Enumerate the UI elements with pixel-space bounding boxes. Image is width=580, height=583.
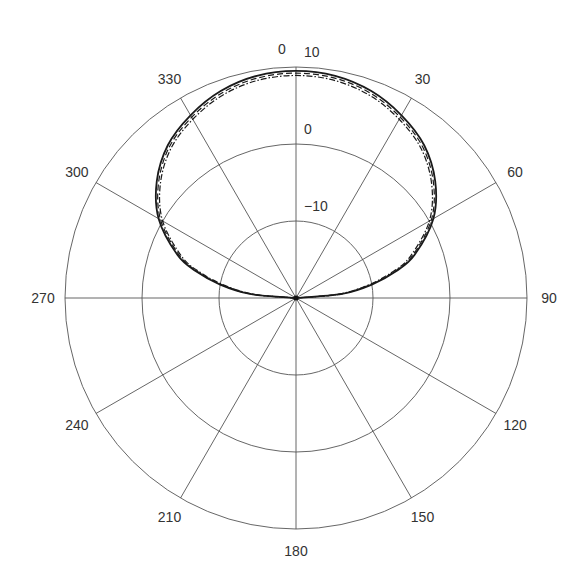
angle-tick-label: 270 [31, 290, 55, 306]
angular-tick-labels: 0306090120150180210240270300330 [31, 41, 557, 559]
angle-tick-label: 150 [411, 509, 435, 525]
angle-tick-label: 330 [158, 71, 182, 87]
radial-tick-label: 10 [304, 44, 320, 60]
radial-tick-label: −10 [304, 198, 328, 214]
grid-spoke [96, 183, 296, 299]
radial-tick-labels: −10010 [304, 44, 328, 214]
polar-chart: 0306090120150180210240270300330 −10010 [0, 0, 580, 583]
angle-tick-label: 0 [278, 41, 286, 57]
radial-tick-label: 0 [304, 121, 312, 137]
grid-spoke [96, 298, 296, 414]
angle-tick-label: 210 [158, 509, 182, 525]
angle-tick-label: 30 [415, 71, 431, 87]
grid-spoke [296, 298, 412, 498]
grid-spoke [181, 98, 297, 298]
angle-tick-label: 120 [503, 417, 527, 433]
angle-tick-label: 180 [284, 543, 308, 559]
center-point [294, 296, 299, 301]
grid-spoke [181, 298, 297, 498]
angle-tick-label: 240 [65, 417, 89, 433]
grid-spoke [296, 298, 496, 414]
angle-tick-label: 90 [541, 290, 557, 306]
angle-tick-label: 60 [507, 164, 523, 180]
angle-tick-label: 300 [65, 164, 89, 180]
